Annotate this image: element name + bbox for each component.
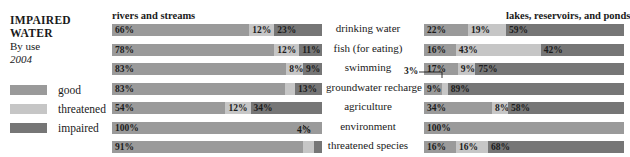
bar-segment-value: 83%	[112, 83, 134, 95]
bar-segment-threatened: 8%	[492, 102, 508, 114]
legend-item-good: good	[10, 82, 120, 98]
bar-segment-value: 68%	[488, 141, 510, 153]
category-label-swimming: swimming	[326, 61, 410, 73]
bar-right-fish-for-eating-: 16%43%42%	[424, 44, 624, 56]
legend-swatch-good-icon	[10, 85, 47, 95]
bar-segment-value: 34%	[251, 102, 273, 114]
bar-segment-value: 22%	[424, 24, 446, 36]
page-subtitle: By use	[10, 40, 108, 53]
bar-segment-impaired: 59%	[506, 24, 624, 36]
title-block: IMPAIRED WATER By use 2004	[10, 14, 108, 65]
callout-right-3-percent: 3%	[404, 66, 418, 76]
category-label-fish-for-eating-: fish (for eating)	[326, 42, 410, 54]
bar-right-drinking-water: 22%19%59%	[424, 24, 624, 36]
bar-segment-value: 100%	[112, 122, 139, 134]
bar-segment-threatened: 9%	[458, 63, 476, 75]
bar-segment-good: 66%	[112, 24, 249, 36]
bar-right-swimming: 17%9%75%	[424, 63, 624, 75]
legend-item-impaired: impaired	[10, 120, 120, 136]
bar-segment-value: 9%	[303, 63, 320, 75]
bar-segment-value: 75%	[475, 63, 497, 75]
bar-segment-impaired: 58%	[508, 102, 624, 114]
bar-segment-impaired: 42%	[541, 44, 624, 56]
bar-segment-value: 54%	[112, 102, 134, 114]
bar-segment-impaired: 89%	[448, 83, 624, 95]
bar-segment-value: 8%	[492, 102, 508, 114]
bar-segment-impaired: 9%	[303, 63, 322, 75]
bar-segment-value: 58%	[508, 102, 530, 114]
bar-segment-impaired: 4%	[314, 141, 322, 153]
bar-right-agriculture: 34%8%58%	[424, 102, 624, 114]
group-heading-rivers-and-streams: rivers and streams	[112, 10, 195, 21]
bar-segment-value: 12%	[274, 44, 296, 56]
bar-segment-value: 34%	[424, 102, 446, 114]
bar-segment-impaired: 34%	[251, 102, 322, 114]
bar-segment-good: 83%	[112, 63, 286, 75]
bar-segment-impaired: 11%	[299, 44, 322, 56]
bar-segment-value: 23%	[274, 24, 296, 36]
bar-segment-value: 9%	[458, 63, 475, 75]
bar-segment-threatened: 19%	[468, 24, 506, 36]
bar-left-swimming: 83%8%9%	[112, 63, 322, 75]
bar-segment-threatened: 16%	[456, 141, 488, 153]
bar-segment-value: 13%	[295, 83, 317, 95]
bar-left-fish-for-eating-: 78%12%11%	[112, 44, 322, 56]
bar-segment-threatened: 43%	[456, 44, 541, 56]
page-title-line-1: IMPAIRED	[10, 14, 108, 27]
bar-segment-good: 100%	[424, 122, 624, 134]
bar-segment-impaired: 68%	[488, 141, 624, 153]
bar-left-groundwater-recharge: 83%5%13%	[112, 83, 322, 95]
bar-segment-threatened: 12%	[274, 44, 299, 56]
bar-segment-impaired: 13%	[295, 83, 322, 95]
bar-segment-value: 43%	[456, 44, 478, 56]
bar-segment-good: 34%	[424, 102, 492, 114]
bar-segment-value: 9%	[424, 83, 441, 95]
bar-segment-value: 83%	[112, 63, 134, 75]
bar-segment-good: 91%	[112, 141, 303, 153]
bar-segment-value: 16%	[424, 141, 446, 153]
bar-left-threatened-species: 91%5%4%	[112, 141, 322, 153]
bar-segment-value: 89%	[448, 83, 470, 95]
group-heading-lakes-reservoirs-ponds: lakes, reservoirs, and ponds	[506, 10, 630, 21]
bar-segment-value: 8%	[286, 63, 303, 75]
bar-segment-value: 78%	[112, 44, 134, 56]
bar-right-groundwater-recharge: 9%3%89%	[424, 83, 624, 95]
bar-segment-value: 42%	[541, 44, 563, 56]
legend-label-impaired: impaired	[58, 122, 99, 134]
bar-segment-threatened: 12%	[225, 102, 250, 114]
bar-segment-value: 12%	[249, 24, 271, 36]
bar-segment-good: 16%	[424, 141, 456, 153]
bar-segment-impaired: 23%	[274, 24, 322, 36]
bar-segment-value: 17%	[424, 63, 446, 75]
bar-segment-good: 9%	[424, 83, 442, 95]
category-label-environment: environment	[326, 120, 410, 132]
bar-segment-good: 22%	[424, 24, 468, 36]
bar-right-threatened-species: 16%16%68%	[424, 141, 624, 153]
bar-segment-good: 54%	[112, 102, 225, 114]
bar-segment-value: 91%	[112, 141, 134, 153]
bar-segment-value: 59%	[506, 24, 528, 36]
category-label-drinking-water: drinking water	[326, 22, 410, 34]
bar-right-environment: 100%	[424, 122, 624, 134]
page-title-line-2: WATER	[10, 27, 108, 40]
bar-segment-value: 100%	[424, 122, 451, 134]
bar-segment-value: 16%	[456, 141, 478, 153]
bar-segment-good: 83%	[112, 83, 285, 95]
page-year: 2004	[10, 53, 108, 66]
bar-segment-threatened: 5%	[303, 141, 314, 153]
bar-left-environment: 100%	[112, 122, 322, 134]
bar-segment-value: 19%	[468, 24, 490, 36]
bar-segment-value: 66%	[112, 24, 134, 36]
bar-segment-good: 78%	[112, 44, 274, 56]
bar-segment-good: 17%	[424, 63, 458, 75]
bar-segment-threatened: 12%	[249, 24, 274, 36]
bar-segment-value: 11%	[299, 44, 320, 56]
legend-swatch-impaired-icon	[10, 123, 47, 133]
bar-left-agriculture: 54%12%34%	[112, 102, 322, 114]
legend-label-good: good	[58, 84, 81, 96]
bar-segment-impaired: 75%	[475, 63, 624, 75]
legend-swatch-threatened-icon	[10, 104, 47, 114]
callout-left-4-percent: 4%	[297, 125, 311, 135]
category-label-threatened-species: threatened species	[326, 139, 410, 151]
bar-segment-value: 16%	[424, 44, 446, 56]
